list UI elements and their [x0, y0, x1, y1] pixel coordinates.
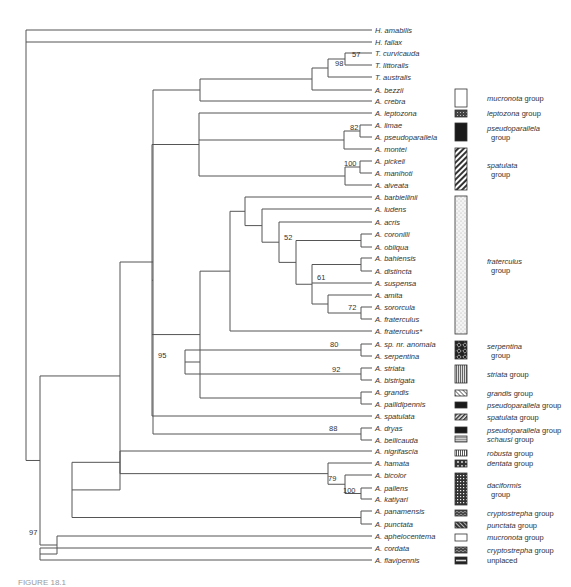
svg-text:unplaced: unplaced — [487, 556, 517, 565]
leaf-label: A. bezzii — [374, 86, 404, 95]
svg-text:group: group — [491, 170, 510, 179]
leaf-label: A. katiyari — [374, 495, 408, 504]
legend-item: grandis group — [455, 389, 533, 398]
legend-item: spatulata group — [455, 413, 539, 422]
legend-swatch — [455, 365, 467, 383]
support-value: 88 — [329, 424, 337, 433]
svg-text:striata group: striata group — [487, 370, 529, 379]
leaf-label: A. bistrigata — [374, 376, 415, 385]
legend-item: pseudoparallela group — [455, 426, 561, 435]
legend-item: daciformisgroup — [455, 473, 521, 505]
svg-text:robusta group: robusta group — [487, 449, 533, 458]
legend-swatch — [455, 510, 467, 516]
svg-text:punctata group: punctata group — [486, 521, 537, 530]
leaf-label: A. flavipennis — [374, 556, 420, 565]
leaf-label: A. hamata — [374, 459, 409, 468]
legend-item: cryptostrepha group — [455, 509, 554, 518]
leaf-label: A. fraterculus* — [374, 327, 423, 336]
svg-text:group: group — [491, 351, 510, 360]
leaf-label: A. nigrifascia — [374, 447, 418, 456]
svg-text:group: group — [491, 133, 510, 142]
legend-item: punctata group — [455, 521, 537, 530]
leaf-label: A. sp. nr. anomala — [374, 340, 436, 349]
leaf-label: H. amabilis — [375, 26, 412, 35]
legend-item: serpentinagroup — [455, 341, 522, 360]
leaf-label: A. leptozona — [374, 109, 417, 118]
legend-item: unplaced — [455, 556, 517, 565]
svg-text:daciformis: daciformis — [487, 481, 521, 490]
leaf-label: A. manihoti — [374, 169, 413, 178]
support-value: 52 — [284, 233, 292, 242]
svg-text:grandis group: grandis group — [487, 389, 533, 398]
leaf-label: A. pseudoparallela — [374, 133, 437, 142]
legend-swatch — [455, 390, 467, 396]
support-value: 79 — [328, 474, 336, 483]
legend-item: dentata group — [455, 459, 533, 468]
legend-swatch — [455, 522, 467, 528]
legend-item: leptozona group — [455, 109, 541, 118]
legend-swatch — [455, 148, 467, 190]
leaf-label: A. bahiensis — [374, 254, 416, 263]
leaf-label: A. dryas — [374, 424, 403, 433]
legend-swatch — [455, 534, 467, 541]
svg-text:dentata group: dentata group — [487, 459, 533, 468]
svg-text:cryptostrepha group: cryptostrepha group — [487, 509, 554, 518]
leaf-label: A. suspensa — [374, 279, 416, 288]
legend-item: pseudoparallela group — [455, 401, 561, 410]
support-value: 82 — [350, 123, 358, 132]
legend-swatch — [455, 196, 467, 334]
leaf-label: T. curvicauda — [375, 49, 419, 58]
support-value: 72 — [348, 303, 356, 312]
legend-item: fraterculusgroup — [455, 196, 522, 334]
svg-text:spatulata: spatulata — [487, 161, 517, 170]
legend-swatch — [455, 450, 467, 456]
bootstrap-support-values: 579882100526172809295887910097 — [29, 50, 360, 537]
legend-swatch — [455, 341, 467, 359]
leaf-label: A. coronilli — [374, 230, 410, 239]
leaf-label: A. distincta — [374, 267, 412, 276]
leaf-label: A. pallens — [374, 484, 408, 493]
figure-caption: FIGURE 18.1 — [18, 578, 66, 587]
leaf-label: H. fallax — [375, 38, 402, 47]
leaf-label: A. bellicauda — [374, 436, 418, 445]
legend-item: spatulatagroup — [455, 148, 517, 190]
support-value: 100 — [344, 159, 357, 168]
legend-item: schausi group — [455, 435, 534, 444]
leaf-label: A. alveata — [374, 181, 408, 190]
legend-item: mucronota group — [455, 533, 544, 542]
legend-swatch — [455, 402, 467, 408]
legend-swatch — [455, 473, 467, 505]
support-value: 98 — [335, 59, 343, 68]
svg-text:spatulata group: spatulata group — [487, 413, 539, 422]
leaf-label: A. pickeli — [374, 157, 405, 166]
svg-text:mucronota group: mucronota group — [487, 533, 544, 542]
leaf-label: A. cordata — [374, 544, 409, 553]
svg-text:mucronota group: mucronota group — [487, 94, 544, 103]
leaf-label: A. barbiellinii — [374, 193, 418, 202]
legend-item: pseudoparallelagroup — [455, 123, 540, 142]
leaf-label: A. punctata — [374, 520, 413, 529]
svg-text:group: group — [491, 490, 510, 499]
legend-swatch — [455, 460, 467, 467]
legend-item: mucronota group — [455, 89, 544, 107]
svg-text:leptozona group: leptozona group — [487, 109, 541, 118]
support-value: 61 — [317, 273, 325, 282]
support-value: 92 — [332, 365, 340, 374]
legend-swatch — [455, 110, 467, 117]
leaf-label: A. serpentina — [374, 352, 419, 361]
legend-item: cryptostrepha group — [455, 546, 554, 555]
legend-swatch — [455, 427, 467, 433]
legend-swatch — [455, 436, 467, 442]
leaf-label: A. fraterculus — [374, 315, 419, 324]
support-value: 95 — [158, 351, 166, 360]
legend-item: robusta group — [455, 449, 533, 458]
leaf-label: A. limae — [374, 121, 402, 130]
svg-text:group: group — [491, 266, 510, 275]
legend-item: striata group — [455, 365, 529, 383]
svg-text:pseudoparallela group: pseudoparallela group — [486, 401, 561, 410]
support-value: 100 — [343, 486, 356, 495]
leaf-label: A. aphelocentema — [374, 532, 435, 541]
leaf-label: A. sororcula — [374, 303, 415, 312]
leaf-label: A. striata — [374, 364, 405, 373]
leaf-label: A. crebra — [374, 97, 405, 106]
